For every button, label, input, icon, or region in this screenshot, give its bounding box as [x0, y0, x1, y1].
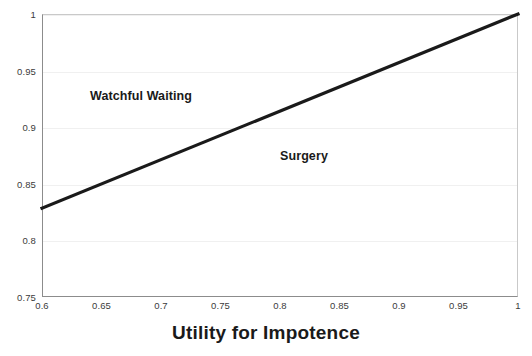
x-tick-label: 1 — [515, 300, 520, 311]
y-tick-label: 0.8 — [22, 235, 36, 246]
y-tick-label: 0.95 — [17, 65, 36, 76]
x-tick-label: 0.8 — [273, 300, 287, 311]
x-tick-label: 0.6 — [35, 300, 49, 311]
x-tick-label: 0.65 — [92, 300, 111, 311]
y-tick-label: 0.75 — [17, 292, 36, 303]
x-tick-label: 0.85 — [330, 300, 349, 311]
region-label-surgery: Surgery — [280, 149, 328, 163]
chart-container: 1 0.95 0.9 0.85 0.8 0.75 0.6 0.65 0.7 0.… — [0, 0, 532, 356]
y-axis-tick-labels: 1 0.95 0.9 0.85 0.8 0.75 — [0, 14, 38, 297]
x-axis-tick-labels: 0.6 0.65 0.7 0.75 0.8 0.85 0.9 0.95 1 — [42, 300, 518, 316]
y-tick-label: 1 — [31, 9, 36, 20]
x-tick-label: 0.75 — [211, 300, 230, 311]
y-tick-label: 0.85 — [17, 178, 36, 189]
x-tick-label: 0.9 — [392, 300, 406, 311]
y-tick-label: 0.9 — [22, 122, 36, 133]
x-tick-label: 0.7 — [154, 300, 168, 311]
x-tick-label: 0.95 — [449, 300, 468, 311]
threshold-line — [42, 14, 518, 208]
region-label-watchful-waiting: Watchful Waiting — [90, 89, 192, 103]
x-axis-title: Utility for Impotence — [0, 322, 532, 344]
